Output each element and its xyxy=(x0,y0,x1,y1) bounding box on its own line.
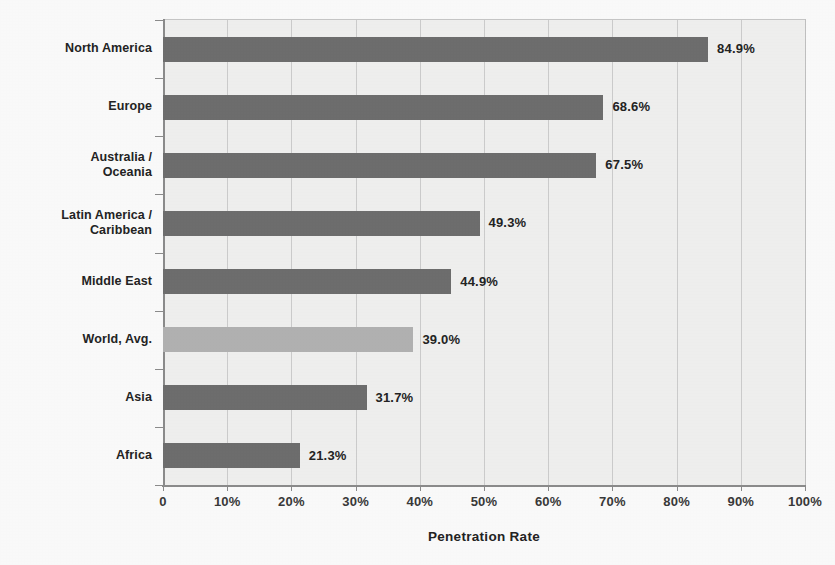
bar-value-label: 39.0% xyxy=(422,332,460,347)
x-axis-tick-label: 40% xyxy=(390,494,450,509)
y-axis-tick xyxy=(155,194,163,195)
x-axis-tick xyxy=(805,485,806,491)
y-axis-tick xyxy=(155,427,163,428)
category-label-line: Australia / xyxy=(0,150,152,165)
x-axis-tick xyxy=(291,485,292,491)
y-axis-tick xyxy=(155,485,163,486)
gridline xyxy=(291,20,292,485)
category-label-line: Asia xyxy=(0,390,152,405)
gridline xyxy=(677,20,678,485)
x-axis-tick xyxy=(677,485,678,491)
category-label-line: Middle East xyxy=(0,274,152,289)
bar[interactable] xyxy=(163,269,451,294)
bar[interactable] xyxy=(163,37,708,62)
category-label-line: Europe xyxy=(0,99,152,114)
y-axis-category-label: Europe xyxy=(0,99,152,114)
y-axis-tick xyxy=(155,369,163,370)
y-axis-tick xyxy=(155,78,163,79)
gridline xyxy=(548,20,549,485)
x-axis-tick-label: 100% xyxy=(775,494,835,509)
x-axis-tick-label: 10% xyxy=(197,494,257,509)
y-axis-tick xyxy=(155,253,163,254)
x-axis-tick xyxy=(612,485,613,491)
y-axis-tick xyxy=(155,311,163,312)
x-axis-tick-label: 60% xyxy=(518,494,578,509)
bar[interactable] xyxy=(163,385,367,410)
x-axis-tick-label: 20% xyxy=(261,494,321,509)
x-axis-tick xyxy=(227,485,228,491)
y-axis-category-label: Latin America /Caribbean xyxy=(0,208,152,238)
gridline xyxy=(484,20,485,485)
x-axis-tick xyxy=(420,485,421,491)
plot-frame-right xyxy=(805,19,806,486)
y-axis-tick xyxy=(155,20,163,21)
x-axis-tick xyxy=(484,485,485,491)
category-label-line: Africa xyxy=(0,448,152,463)
x-axis-tick-label: 80% xyxy=(647,494,707,509)
x-axis-tick-label: 0 xyxy=(133,494,193,509)
bar[interactable] xyxy=(163,95,603,120)
y-axis-tick xyxy=(155,136,163,137)
gridline xyxy=(227,20,228,485)
category-label-line: North America xyxy=(0,41,152,56)
bar[interactable] xyxy=(163,443,300,468)
category-label-line: Caribbean xyxy=(0,223,152,238)
x-axis-tick xyxy=(548,485,549,491)
x-axis-title: Penetration Rate xyxy=(163,529,805,544)
x-axis-tick xyxy=(741,485,742,491)
y-axis-category-label: Middle East xyxy=(0,274,152,289)
bar[interactable] xyxy=(163,211,480,236)
x-axis-tick xyxy=(356,485,357,491)
y-axis-category-label: World, Avg. xyxy=(0,332,152,347)
x-axis-tick-label: 50% xyxy=(454,494,514,509)
bar[interactable] xyxy=(163,153,596,178)
gridline xyxy=(612,20,613,485)
x-axis-tick-label: 90% xyxy=(711,494,771,509)
y-axis-line xyxy=(163,19,165,486)
category-label-line: Oceania xyxy=(0,165,152,180)
gridline xyxy=(741,20,742,485)
bar[interactable] xyxy=(163,327,413,352)
y-axis-category-label: Africa xyxy=(0,448,152,463)
bar-value-label: 84.9% xyxy=(717,41,755,56)
category-label-line: Latin America / xyxy=(0,208,152,223)
bar-value-label: 31.7% xyxy=(376,390,414,405)
gridline xyxy=(356,20,357,485)
gridline xyxy=(420,20,421,485)
plot-frame-top xyxy=(163,19,806,20)
bar-value-label: 68.6% xyxy=(612,99,650,114)
bar-value-label: 67.5% xyxy=(605,157,643,172)
y-axis-category-label: Asia xyxy=(0,390,152,405)
y-axis-category-label: North America xyxy=(0,41,152,56)
bar-chart: North AmericaEuropeAustralia /OceaniaLat… xyxy=(0,0,835,565)
y-axis-category-label: Australia /Oceania xyxy=(0,150,152,180)
x-axis-tick-label: 70% xyxy=(582,494,642,509)
category-label-line: World, Avg. xyxy=(0,332,152,347)
x-axis-tick xyxy=(163,485,164,491)
bar-value-label: 21.3% xyxy=(309,448,347,463)
bar-value-label: 49.3% xyxy=(489,215,527,230)
bar-value-label: 44.9% xyxy=(460,274,498,289)
plot-area xyxy=(163,20,805,485)
x-axis-tick-label: 30% xyxy=(326,494,386,509)
